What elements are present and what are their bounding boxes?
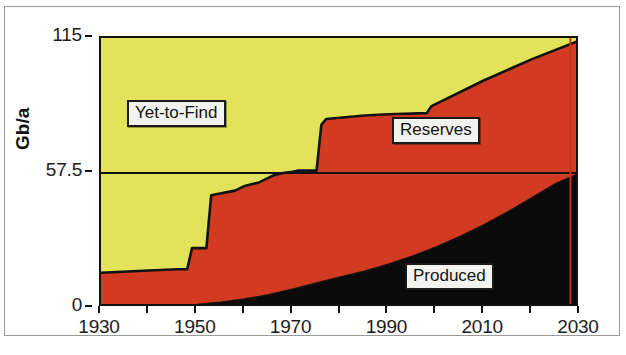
x-tick-mark [290, 306, 292, 313]
x-tick-mark [146, 306, 148, 313]
y-tick-mark [85, 35, 92, 37]
x-tick-mark [242, 306, 244, 313]
x-tick-label-2010: 2010 [461, 316, 502, 338]
x-tick-label-1970: 1970 [270, 316, 311, 338]
x-tick-mark [194, 306, 196, 313]
x-tick-label-1990: 1990 [366, 316, 407, 338]
plot-wrapper: Yet-to-Find Reserves Produced [99, 36, 578, 306]
x-tick-label-1930: 1930 [78, 316, 119, 338]
y-tick-mark [85, 170, 92, 172]
x-tick-mark [385, 306, 387, 313]
series-label-reserves: Reserves [392, 117, 480, 144]
x-tick-mark [338, 306, 340, 313]
x-tick-mark [529, 306, 531, 313]
x-tick-label-2030: 2030 [557, 316, 598, 338]
plot-area [99, 36, 578, 306]
series-label-produced: Produced [405, 263, 494, 290]
x-tick-label-1950: 1950 [174, 316, 215, 338]
series-label-yet-to-find: Yet-to-Find [127, 100, 226, 127]
y-tick-mark [85, 305, 92, 307]
x-tick-mark [577, 306, 579, 313]
y-tick-label-115: 115 [52, 24, 82, 46]
x-tick-mark [98, 306, 100, 313]
x-tick-mark [481, 306, 483, 313]
figure-root: Gb/a 057.5115 Yet-to-Find Reserves Produ… [0, 0, 626, 355]
stacked-area-chart [101, 38, 578, 306]
y-tick-label-57-5: 57.5 [46, 159, 82, 181]
y-tick-label-0: 0 [72, 294, 82, 316]
y-axis-ticks: 057.5115 [20, 0, 92, 355]
x-tick-mark [433, 306, 435, 313]
